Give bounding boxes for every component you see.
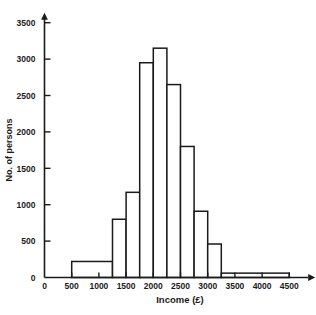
x-axis-arrow xyxy=(308,274,315,281)
y-tick-label: 1000 xyxy=(17,200,36,210)
y-tick-label: 3500 xyxy=(17,18,36,28)
histogram-chart: 0500100015002000250030003500 05001000150… xyxy=(0,0,316,315)
x-tick-label: 4500 xyxy=(280,281,299,291)
histogram-bar xyxy=(126,192,140,277)
x-tick-label: 500 xyxy=(65,281,79,291)
x-axis-label: Income (£) xyxy=(156,294,204,305)
y-tick-label: 3000 xyxy=(17,54,36,64)
x-tick-label: 3500 xyxy=(225,281,244,291)
y-axis-label: No. of persons xyxy=(4,118,14,181)
x-tick-label: 1000 xyxy=(89,281,108,291)
y-axis-tick-labels: 0500100015002000250030003500 xyxy=(17,18,36,283)
y-tick-label: 500 xyxy=(21,236,35,246)
histogram-bar xyxy=(208,244,222,277)
x-tick-label: 0 xyxy=(42,281,47,291)
y-tick-label: 2000 xyxy=(17,127,36,137)
y-tick-label: 2500 xyxy=(17,91,36,101)
histogram-bar xyxy=(113,219,127,277)
x-tick-label: 2500 xyxy=(171,281,190,291)
x-tick-label: 3000 xyxy=(198,281,217,291)
bars-group xyxy=(72,48,290,277)
x-tick-label: 4000 xyxy=(253,281,272,291)
histogram-bar xyxy=(167,85,181,278)
y-tick-label: 1500 xyxy=(17,164,36,174)
y-axis-ticks xyxy=(45,23,51,241)
histogram-bar xyxy=(181,146,195,277)
y-axis-arrow xyxy=(41,13,48,20)
x-axis-tick-labels: 050010001500200025003000350040004500 xyxy=(42,281,299,291)
y-tick-label: 0 xyxy=(31,273,36,283)
plot-area: 0500100015002000250030003500 05001000150… xyxy=(0,0,316,315)
histogram-bar xyxy=(153,48,167,277)
x-tick-label: 2000 xyxy=(144,281,163,291)
x-tick-label: 1500 xyxy=(117,281,136,291)
histogram-bar xyxy=(72,261,113,277)
histogram-bar xyxy=(140,63,154,278)
histogram-bar xyxy=(194,211,208,277)
